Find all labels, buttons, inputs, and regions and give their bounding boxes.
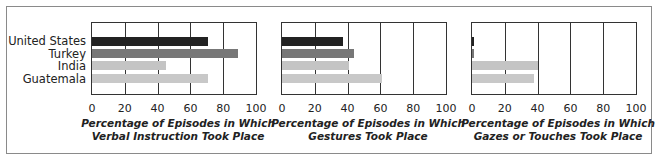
x-tick-label: 100 (246, 102, 267, 115)
gridline (413, 23, 414, 94)
bar-united-states (282, 37, 343, 46)
gridline (570, 23, 571, 94)
category-label-united-states: United States (8, 35, 86, 47)
x-tick-label: 80 (406, 102, 420, 115)
plot-area (91, 22, 257, 95)
gridline (125, 23, 126, 94)
x-tick-label: 60 (373, 102, 387, 115)
x-tick-label: 100 (436, 102, 457, 115)
x-tick-label: 40 (151, 102, 165, 115)
x-axis-title: Percentage of Episodes in WhichGazes or … (461, 117, 655, 143)
x-tick-label: 40 (531, 102, 545, 115)
x-axis-title-line: Gestures Took Place (271, 130, 465, 143)
gridline (190, 23, 191, 94)
gridline (223, 23, 224, 94)
x-axis-title-line: Percentage of Episodes in Which (271, 117, 465, 130)
x-tick-label: 0 (279, 102, 286, 115)
gridline (158, 23, 159, 94)
category-label-guatemala: Guatemala (23, 73, 86, 85)
bar-india (92, 61, 166, 70)
x-tick-label: 80 (596, 102, 610, 115)
x-tick-label: 100 (626, 102, 647, 115)
gridline (505, 23, 506, 94)
x-axis-title: Percentage of Episodes in WhichVerbal In… (81, 117, 275, 143)
bar-guatemala (92, 74, 208, 83)
gridline (348, 23, 349, 94)
x-tick-label: 80 (216, 102, 230, 115)
x-axis-title: Percentage of Episodes in WhichGestures … (271, 117, 465, 143)
bar-guatemala (282, 74, 382, 83)
category-labels: United States Turkey India Guatemala (0, 0, 86, 100)
gridline (538, 23, 539, 94)
x-axis-title-line: Gazes or Touches Took Place (461, 130, 655, 143)
x-tick-label: 20 (308, 102, 322, 115)
category-label-india: India (58, 60, 86, 72)
x-tick-label: 40 (341, 102, 355, 115)
bar-guatemala (472, 74, 534, 83)
bar-turkey (92, 49, 238, 58)
plot-area (471, 22, 637, 95)
x-axis-title-line: Verbal Instruction Took Place (81, 130, 275, 143)
x-tick-label: 20 (498, 102, 512, 115)
gridline (380, 23, 381, 94)
bar-turkey (472, 49, 474, 58)
x-tick-label: 60 (183, 102, 197, 115)
bar-turkey (282, 49, 354, 58)
x-axis-title-line: Percentage of Episodes in Which (81, 117, 275, 130)
x-tick-label: 0 (89, 102, 96, 115)
bar-united-states (472, 37, 474, 46)
x-axis-title-line: Percentage of Episodes in Which (461, 117, 655, 130)
gridline (603, 23, 604, 94)
bar-india (282, 61, 349, 70)
x-tick-label: 20 (118, 102, 132, 115)
plot-area (281, 22, 447, 95)
x-tick-label: 0 (469, 102, 476, 115)
gridline (315, 23, 316, 94)
x-tick-label: 60 (563, 102, 577, 115)
bar-india (472, 61, 538, 70)
bar-united-states (92, 37, 208, 46)
